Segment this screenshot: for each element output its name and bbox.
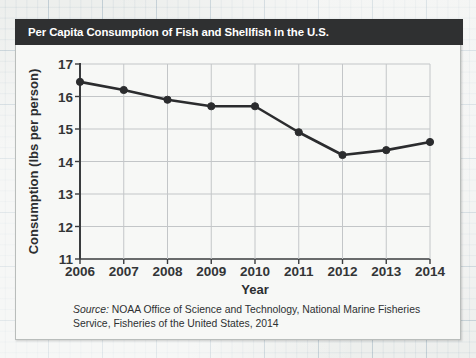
x-tick-label: 2010: [240, 264, 270, 279]
x-tick-label: 2008: [152, 264, 182, 279]
chart-title-bar: Per Capita Consumption of Fish and Shell…: [15, 19, 463, 45]
x-tick-label: 2006: [65, 264, 95, 279]
source-note-text: NOAA Office of Science and Technology, N…: [73, 304, 420, 329]
x-tick-label: 2011: [284, 264, 313, 279]
plot-area: 17161514131211 2006200720082009201020112…: [80, 64, 430, 259]
y-tick-label: 15: [58, 122, 73, 137]
x-tick-label: 2012: [327, 264, 357, 279]
x-tick-label: 2007: [109, 264, 139, 279]
x-tick-label: 2013: [371, 264, 401, 279]
y-axis-label: Consumption (lbs per person): [24, 64, 42, 259]
x-tick-label: 2009: [196, 264, 226, 279]
source-note-label: Source:: [73, 304, 109, 315]
y-tick-label: 16: [58, 89, 73, 104]
page-title: Per Capita Consumption of Fish and Shell…: [15, 26, 329, 38]
chart-figure-card: Per Capita Consumption of Fish and Shell…: [15, 19, 461, 340]
y-tick-label: 13: [58, 187, 73, 202]
y-tick-label: 14: [58, 154, 73, 169]
data-series-layer: [80, 64, 430, 259]
y-tick-label: 17: [58, 57, 73, 72]
x-axis-label: Year: [80, 282, 430, 297]
y-tick-label: 12: [58, 219, 73, 234]
source-note: Source: NOAA Office of Science and Techn…: [73, 303, 443, 331]
x-tick-label: 2014: [415, 264, 445, 279]
